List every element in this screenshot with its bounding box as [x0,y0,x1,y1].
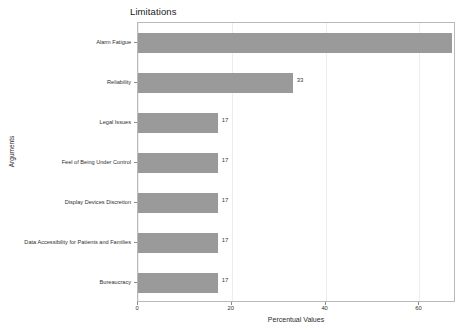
bar[interactable] [138,233,218,253]
y-tick-label: Data Accessibility for Patients and Fami… [0,239,131,245]
y-tick-mark [134,242,137,243]
chart-canvas: Limitations Arguments 67331717171717 Ala… [0,0,464,332]
y-tick-mark [134,122,137,123]
x-axis-title: Percentual Values [137,316,455,323]
bar-row: 17 [138,223,454,263]
bar-row: 17 [138,143,454,183]
x-tick-label: 60 [408,305,428,311]
bar-row: 67 [138,23,454,63]
bar-value-label: 17 [222,117,229,123]
y-tick-mark [134,202,137,203]
y-axis-title: Arguments [8,117,15,187]
bar-row: 17 [138,103,454,143]
y-tick-label: Display Devices Discretion [0,199,131,205]
bar[interactable] [138,153,218,173]
y-tick-label: Bureaucracy [0,279,131,285]
bar-value-label: 17 [222,277,229,283]
y-tick-label: Alarm Fatigue [0,39,131,45]
bar-value-label: 33 [297,77,304,83]
chart-title: Limitations [130,6,177,17]
bar-row: 33 [138,63,454,103]
y-tick-mark [134,42,137,43]
bar-row: 17 [138,263,454,301]
bar[interactable] [138,33,452,53]
y-tick-mark [134,82,137,83]
plot-area: 67331717171717 [137,22,455,302]
bar-value-label: 17 [222,197,229,203]
plot-inner: 67331717171717 [138,23,454,301]
bar[interactable] [138,193,218,213]
bar[interactable] [138,113,218,133]
bar-value-label: 17 [222,157,229,163]
bar-row: 17 [138,183,454,223]
bar[interactable] [138,73,293,93]
bar-value-label: 17 [222,237,229,243]
y-tick-label: Legal Issues [0,119,131,125]
y-tick-label: Reliability [0,79,131,85]
bar[interactable] [138,273,218,293]
y-tick-mark [134,282,137,283]
y-tick-mark [134,162,137,163]
y-tick-label: Feel of Being Under Control [0,159,131,165]
x-tick-label: 0 [127,305,147,311]
x-tick-label: 40 [315,305,335,311]
x-tick-label: 20 [221,305,241,311]
